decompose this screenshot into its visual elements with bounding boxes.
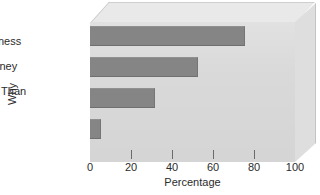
x-axis-tick-label: 0 [73, 161, 107, 173]
x-axis-tick-label: 40 [155, 161, 189, 173]
bar [90, 26, 245, 46]
x-axis-tick-mark [213, 150, 214, 159]
x-axis-tick-mark [172, 150, 173, 159]
bar-chart: 020406080100 Increase EffectivenessSave … [0, 0, 320, 195]
category-label: Other [0, 122, 96, 134]
x-axis-tick-label: 60 [196, 161, 230, 173]
chart-panel-top-face [90, 2, 315, 23]
x-axis-tick-label: 20 [114, 161, 148, 173]
x-axis-tick-mark [131, 150, 132, 159]
bar [90, 88, 155, 108]
x-axis-tick-label: 100 [278, 161, 312, 173]
chart-panel-right-face [295, 3, 316, 162]
x-axis-title: Percentage [90, 176, 295, 188]
category-label: Increase Effectiveness [0, 23, 96, 47]
x-axis-tick-mark [254, 150, 255, 159]
y-axis-title: Why [6, 74, 18, 114]
bar [90, 57, 198, 77]
category-label: Save Money [0, 60, 96, 72]
x-axis-tick-label: 80 [237, 161, 271, 173]
